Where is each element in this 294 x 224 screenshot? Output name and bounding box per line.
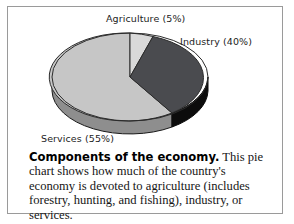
pie-label-industry: Industry (40%) — [180, 36, 252, 47]
caption-heading: Components of the economy. — [29, 150, 219, 164]
pie-chart: Agriculture (5%) Industry (40%) Services… — [8, 7, 284, 147]
figure-frame: Agriculture (5%) Industry (40%) Services… — [7, 6, 283, 214]
figure-caption: Components of the economy. This pie char… — [29, 150, 268, 222]
pie-label-services: Services (55%) — [41, 133, 114, 144]
pie-label-agriculture: Agriculture (5%) — [106, 13, 185, 24]
